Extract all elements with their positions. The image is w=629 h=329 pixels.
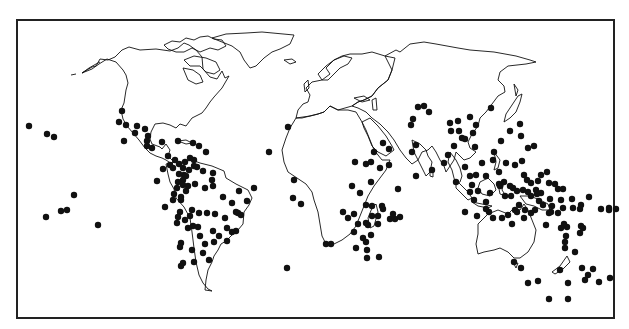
- occurrence-dot: [328, 241, 334, 247]
- occurrence-dot: [162, 204, 168, 210]
- occurrence-dot: [445, 152, 451, 158]
- occurrence-dot: [154, 178, 160, 184]
- coastline-caspian: [372, 98, 377, 110]
- occurrence-dot: [519, 158, 525, 164]
- occurrence-dot: [421, 103, 427, 109]
- occurrence-dot: [524, 177, 530, 183]
- occurrence-dot: [165, 153, 171, 159]
- occurrence-dot: [191, 259, 197, 265]
- occurrence-dot: [472, 144, 478, 150]
- occurrence-dot: [185, 225, 191, 231]
- occurrence-dot: [298, 201, 304, 207]
- occurrence-dot: [508, 193, 514, 199]
- occurrence-dot: [176, 171, 182, 177]
- occurrence-dot: [462, 164, 468, 170]
- occurrence-dot: [368, 159, 374, 165]
- occurrence-dot: [488, 105, 494, 111]
- occurrence-dot: [535, 278, 541, 284]
- occurrence-dot: [531, 143, 537, 149]
- occurrence-dot: [429, 167, 435, 173]
- occurrence-dot: [377, 165, 383, 171]
- occurrence-dot: [518, 133, 524, 139]
- occurrence-dot: [180, 165, 186, 171]
- occurrence-dot: [51, 134, 57, 140]
- occurrence-dot: [525, 280, 531, 286]
- occurrence-dot: [355, 221, 361, 227]
- occurrence-dot: [380, 140, 386, 146]
- occurrence-dot: [410, 116, 416, 122]
- occurrence-dot: [475, 188, 481, 194]
- occurrence-dot: [462, 209, 468, 215]
- occurrence-dot: [469, 182, 475, 188]
- occurrence-dot: [483, 199, 489, 205]
- occurrence-dot: [211, 239, 217, 245]
- occurrence-dot: [349, 183, 355, 189]
- occurrence-dot: [224, 225, 230, 231]
- occurrence-dot: [43, 214, 49, 220]
- occurrence-dot: [186, 167, 192, 173]
- occurrence-dot: [543, 222, 549, 228]
- occurrence-dot: [535, 178, 541, 184]
- occurrence-dot: [474, 213, 480, 219]
- occurrence-dot: [364, 247, 370, 253]
- occurrence-dot: [455, 118, 461, 124]
- occurrence-dot: [409, 149, 415, 155]
- occurrence-dot: [204, 210, 210, 216]
- occurrence-dot: [586, 194, 592, 200]
- occurrence-dot: [189, 247, 195, 253]
- occurrence-dot: [229, 229, 235, 235]
- occurrence-dot: [170, 197, 176, 203]
- occurrence-dot: [178, 263, 184, 269]
- occurrence-dot: [473, 172, 479, 178]
- occurrence-dot: [613, 206, 619, 212]
- occurrence-dot: [467, 189, 473, 195]
- occurrence-dot: [507, 183, 513, 189]
- occurrence-dot: [479, 160, 485, 166]
- occurrence-dot: [386, 146, 392, 152]
- occurrence-dot: [503, 160, 509, 166]
- occurrence-dot: [116, 119, 122, 125]
- occurrence-dot: [119, 108, 125, 114]
- occurrence-dot: [555, 210, 561, 216]
- occurrence-dot: [64, 207, 70, 213]
- occurrence-dot: [159, 139, 165, 145]
- occurrence-dot: [183, 188, 189, 194]
- occurrence-dot: [499, 215, 505, 221]
- occurrence-dot: [191, 157, 197, 163]
- occurrence-dot: [197, 233, 203, 239]
- occurrence-dot: [483, 206, 489, 212]
- occurrence-dot: [491, 149, 497, 155]
- coastline-japan: [504, 94, 522, 122]
- occurrence-dot: [203, 149, 209, 155]
- occurrence-dot: [562, 245, 568, 251]
- occurrence-dot: [284, 265, 290, 271]
- occurrence-dot: [123, 122, 129, 128]
- occurrence-dot: [522, 207, 528, 213]
- occurrence-dot: [413, 142, 419, 148]
- occurrence-dot: [579, 265, 585, 271]
- occurrence-dot: [132, 130, 138, 136]
- occurrence-dot: [560, 186, 566, 192]
- occurrence-dot: [368, 232, 374, 238]
- occurrence-dot: [182, 159, 188, 165]
- occurrence-dot: [582, 277, 588, 283]
- coastline-africa: [282, 106, 390, 244]
- occurrence-dot: [498, 138, 504, 144]
- occurrence-dot: [451, 143, 457, 149]
- occurrence-dot: [189, 207, 195, 213]
- occurrence-dot: [596, 279, 602, 285]
- occurrence-dot: [216, 233, 222, 239]
- occurrence-dot: [368, 179, 374, 185]
- occurrence-dot: [134, 123, 140, 129]
- occurrence-dot: [371, 149, 377, 155]
- occurrence-dot: [456, 128, 462, 134]
- occurrence-dot: [351, 211, 357, 217]
- occurrence-dot: [415, 104, 421, 110]
- occurrence-dot: [209, 177, 215, 183]
- occurrence-dot: [187, 213, 193, 219]
- occurrence-dot: [462, 136, 468, 142]
- occurrence-dot: [196, 210, 202, 216]
- occurrence-dot: [483, 173, 489, 179]
- occurrence-dot: [590, 266, 596, 272]
- occurrence-dot: [606, 205, 612, 211]
